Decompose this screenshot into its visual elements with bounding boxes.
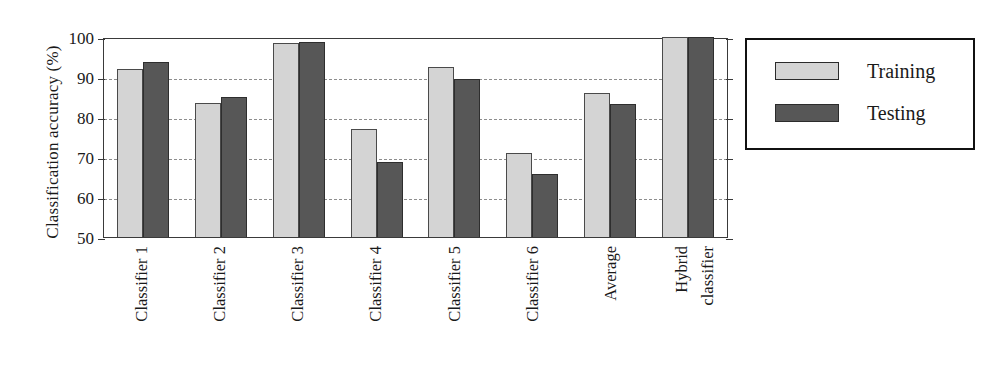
legend-swatch-training: [775, 62, 839, 80]
legend-swatch-testing: [775, 104, 839, 122]
y-tick-label: 80: [32, 110, 94, 127]
x-tick-label: Classifier 4: [368, 246, 385, 322]
x-tick-label: Classifier 6: [524, 246, 541, 322]
y-tick-label: 70: [32, 150, 94, 167]
bar-groups: [104, 39, 727, 237]
legend-label: Testing: [867, 103, 926, 123]
bar-testing: [221, 97, 247, 237]
x-tick-label-slot: Average: [572, 238, 650, 377]
bar-training: [117, 69, 143, 237]
bar-testing: [299, 42, 325, 237]
bar-training: [195, 103, 221, 237]
y-tick-label: 60: [32, 190, 94, 207]
y-tick-label: 100: [32, 30, 94, 47]
bar-training: [584, 93, 610, 237]
bar-group: [338, 39, 416, 237]
bar-testing: [377, 162, 403, 237]
x-tick-label-slot: Classifier 2: [181, 238, 259, 377]
x-tick-label-slot: Classifier 5: [416, 238, 494, 377]
bar-training: [428, 67, 454, 237]
x-tick-label: Average: [603, 246, 620, 301]
x-tick-label: Classifier 2: [212, 246, 229, 322]
y-tick-label: 50: [32, 230, 94, 247]
x-axis-tick-labels: Classifier 1Classifier 2Classifier 3Clas…: [103, 238, 728, 377]
bar-group: [182, 39, 260, 237]
bar-testing: [610, 104, 636, 237]
chart-legend: TrainingTesting: [745, 38, 975, 150]
x-tick-label: Classifier 3: [290, 246, 307, 322]
x-tick-label: Classifier 1: [134, 246, 151, 322]
bar-training: [506, 153, 532, 237]
y-axis-tick-mark: [726, 159, 733, 160]
bar-group: [416, 39, 494, 237]
legend-item: Training: [775, 61, 935, 81]
y-axis-tick-mark: [726, 39, 733, 40]
bar-group: [493, 39, 571, 237]
legend-item: Testing: [775, 103, 926, 123]
y-axis-tick-mark: [726, 79, 733, 80]
x-tick-label: classifier: [700, 246, 717, 306]
y-tick-label: 90: [32, 70, 94, 87]
x-tick-label-slot: Hybridclassifier: [650, 238, 728, 377]
x-tick-label-slot: Classifier 3: [259, 238, 337, 377]
bar-group: [260, 39, 338, 237]
x-tick-label: Classifier 5: [446, 246, 463, 322]
bar-group: [104, 39, 182, 237]
y-axis-tick-mark: [726, 199, 733, 200]
bar-training: [662, 37, 688, 237]
bar-training: [273, 43, 299, 237]
x-tick-label-slot: Classifier 4: [337, 238, 415, 377]
bar-group: [649, 39, 727, 237]
bar-testing: [454, 79, 480, 237]
y-axis-tick-mark: [726, 119, 733, 120]
bar-group: [571, 39, 649, 237]
bar-testing: [688, 37, 714, 237]
x-tick-label-slot: Classifier 6: [494, 238, 572, 377]
bar-testing: [143, 62, 169, 237]
plot-area: [103, 38, 728, 238]
bar-chart-figure: Classification accuracy (%) 100908070605…: [0, 0, 995, 377]
bar-training: [351, 129, 377, 237]
x-tick-label: Hybrid: [674, 246, 691, 293]
legend-label: Training: [867, 61, 935, 81]
x-tick-label-slot: Classifier 1: [103, 238, 181, 377]
y-axis-tick-labels: 1009080706050: [32, 28, 94, 248]
bar-testing: [532, 174, 558, 237]
